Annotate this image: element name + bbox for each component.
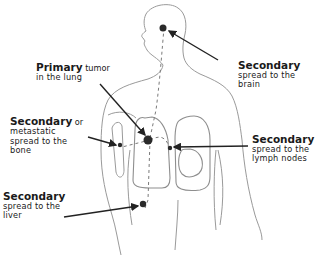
brain-arrow xyxy=(169,31,218,60)
brain-tumor-dot xyxy=(160,25,167,32)
label-bone: Secondary or metastatic spread to the bo… xyxy=(10,115,83,156)
lymph-arrow xyxy=(174,146,248,147)
tumor-sites xyxy=(118,25,172,208)
label-lymph-nodes: Secondary spread to the lymph nodes xyxy=(252,133,314,164)
body-outline xyxy=(101,5,262,255)
lymph-node-dot xyxy=(168,146,172,150)
heart xyxy=(179,149,203,177)
bone-arrow xyxy=(88,137,116,145)
liver-tumor-dot xyxy=(140,201,146,207)
liver-arrow xyxy=(64,206,138,217)
bone-tumor-dot xyxy=(118,143,122,147)
label-brain: Secondary spread to the brain xyxy=(238,59,300,90)
arrows xyxy=(64,31,248,217)
label-liver: Secondary spread to the liver xyxy=(3,190,65,221)
label-primary-tumor: Primary tumor in the lung xyxy=(36,61,110,83)
lungs xyxy=(133,116,210,191)
primary-lung-tumor-dot xyxy=(144,136,153,145)
